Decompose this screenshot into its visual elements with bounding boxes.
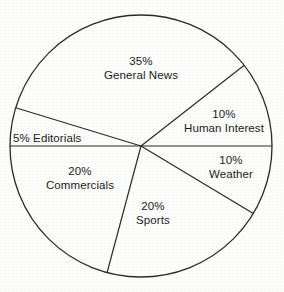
slice-label-weather: 10% Weather [183,154,279,181]
slice-name-general-news: General News [71,69,211,83]
pie-chart-figure: 35% General News 10% Human Interest 10% … [0,0,284,292]
slice-name-weather: Weather [183,168,279,182]
slice-name-sports: Sports [108,214,198,228]
slice-percent-commercials: 20% [21,165,139,179]
slice-percent-human-interest: 10% [166,108,282,122]
slice-label-commercials: 20% Commercials [21,165,139,192]
slice-label-sports: 20% Sports [108,200,198,227]
slice-percent-weather: 10% [183,154,279,168]
slice-percent-sports: 20% [108,200,198,214]
slice-name-human-interest: Human Interest [166,122,282,136]
slice-name-commercials: Commercials [21,179,139,193]
slice-label-human-interest: 10% Human Interest [166,108,282,135]
pie-chart-graphic [0,0,284,292]
slice-percent-general-news: 35% [71,55,211,69]
slice-percent-editorials: 5% Editorials [13,132,129,146]
slice-label-editorials: 5% Editorials [13,132,129,146]
slice-label-general-news: 35% General News [71,55,211,82]
